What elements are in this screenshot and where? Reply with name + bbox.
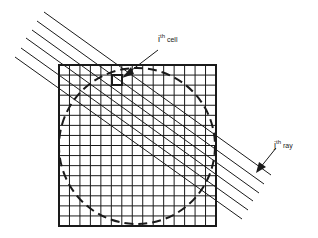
ray-label: jth ray — [274, 139, 293, 150]
ray-pointer-arrow-icon — [256, 148, 276, 173]
cell-label-superscript: th — [160, 33, 165, 39]
ray-line — [26, 38, 253, 201]
diagram-canvas: ith cell jth ray — [0, 0, 318, 238]
ray-label-text: ray — [283, 142, 293, 149]
ray-line — [32, 30, 259, 193]
cell-label: ith cell — [158, 33, 177, 44]
cell-label-text: cell — [167, 36, 178, 43]
ray-line — [15, 57, 242, 219]
ray-line — [37, 21, 264, 184]
ray-label-superscript: th — [276, 139, 281, 145]
